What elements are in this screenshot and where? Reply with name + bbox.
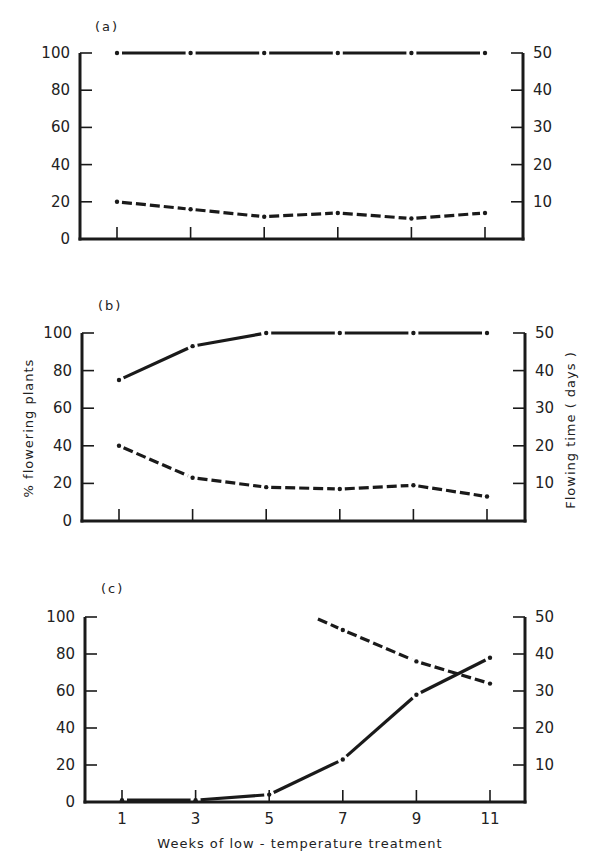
left-tick-label: 80: [51, 81, 70, 99]
right-tick-label: 30: [533, 118, 552, 136]
flowering-time-line: [345, 486, 409, 489]
right-tick-label: 30: [535, 682, 554, 700]
percent-flowering-line: [198, 334, 262, 345]
data-point-marker: [188, 51, 192, 55]
left-tick-label: 20: [53, 474, 72, 492]
percent-flowering-line: [274, 762, 339, 793]
right-tick-label: 20: [535, 719, 554, 737]
left-tick-label: 100: [46, 608, 75, 626]
right-tick-label: 50: [533, 44, 552, 62]
left-tick-label: 40: [56, 719, 75, 737]
data-point-marker: [262, 51, 266, 55]
data-point-marker: [485, 494, 489, 498]
flowering-time-line: [122, 202, 186, 208]
x-tick-label: 11: [480, 810, 499, 828]
right-tick-label: 10: [535, 474, 554, 492]
right-tick-label: 40: [533, 81, 552, 99]
data-point-marker: [488, 656, 492, 660]
data-point-marker: [414, 659, 418, 663]
left-tick-label: 40: [53, 437, 72, 455]
data-point-marker: [338, 331, 342, 335]
data-point-marker: [193, 798, 197, 802]
data-point-marker: [341, 628, 345, 632]
x-tick-label: 1: [117, 810, 127, 828]
left-tick-label: 0: [62, 512, 72, 530]
left-tick-label: 40: [51, 156, 70, 174]
data-point-marker: [414, 693, 418, 697]
data-point-marker: [115, 51, 119, 55]
data-point-marker: [117, 444, 121, 448]
right-tick-label: 10: [535, 756, 554, 774]
left-tick-label: 100: [43, 324, 72, 342]
data-point-marker: [409, 216, 413, 220]
left-tick-label: 80: [56, 645, 75, 663]
left-tick-label: 20: [51, 193, 70, 211]
flowering-time-line: [271, 487, 335, 489]
flowering-time-line: [124, 448, 188, 476]
x-tick-label: 7: [338, 810, 348, 828]
flowering-time-line: [343, 213, 407, 218]
flowering-time-line: [196, 210, 260, 216]
data-point-marker: [409, 51, 413, 55]
right-tick-label: 50: [535, 608, 554, 626]
panel-b: 0204060801001020304050: [43, 324, 554, 530]
right-tick-label: 30: [535, 399, 554, 417]
right-tick-label: 50: [535, 324, 554, 342]
data-point-marker: [190, 476, 194, 480]
right-tick-label: 20: [535, 437, 554, 455]
percent-flowering-line: [201, 795, 265, 800]
data-point-marker: [488, 681, 492, 685]
left-tick-label: 20: [56, 756, 75, 774]
flowering-time-line: [318, 619, 338, 628]
right-tick-label: 20: [533, 156, 552, 174]
panel-a: 0204060801001020304050: [41, 44, 552, 248]
flowering-time-line: [198, 478, 262, 486]
data-point-marker: [115, 200, 119, 204]
data-point-marker: [188, 207, 192, 211]
x-tick-label: 9: [412, 810, 422, 828]
data-point-marker: [341, 757, 345, 761]
data-point-marker: [483, 211, 487, 215]
data-point-marker: [262, 214, 266, 218]
right-tick-label: 40: [535, 362, 554, 380]
left-tick-label: 60: [53, 399, 72, 417]
left-tick-label: 0: [65, 793, 75, 811]
data-point-marker: [117, 378, 121, 382]
left-tick-label: 60: [56, 682, 75, 700]
left-tick-label: 60: [51, 118, 70, 136]
data-point-marker: [190, 344, 194, 348]
flowering-time-line: [418, 486, 482, 496]
left-tick-label: 0: [60, 230, 70, 248]
data-point-marker: [483, 51, 487, 55]
flowering-time-line: [416, 213, 480, 218]
data-point-marker: [411, 483, 415, 487]
right-tick-label: 40: [535, 645, 554, 663]
data-point-marker: [120, 798, 124, 802]
left-tick-label: 80: [53, 362, 72, 380]
panel-c: 02040608010010203040501357911: [46, 608, 554, 828]
data-point-marker: [264, 331, 268, 335]
data-point-marker: [267, 792, 271, 796]
percent-flowering-line: [347, 698, 413, 756]
x-tick-label: 3: [191, 810, 201, 828]
x-tick-label: 5: [264, 810, 274, 828]
figure-three-panel-chart: 0204060801001020304050020406080100102030…: [0, 0, 592, 860]
flowering-time-line: [269, 213, 333, 216]
data-point-marker: [264, 485, 268, 489]
data-point-marker: [485, 331, 489, 335]
data-point-marker: [336, 51, 340, 55]
data-point-marker: [336, 211, 340, 215]
right-tick-label: 10: [533, 193, 552, 211]
data-point-marker: [411, 331, 415, 335]
left-tick-label: 100: [41, 44, 70, 62]
flowering-time-line: [347, 632, 411, 660]
percent-flowering-line: [124, 348, 189, 378]
data-point-marker: [338, 487, 342, 491]
